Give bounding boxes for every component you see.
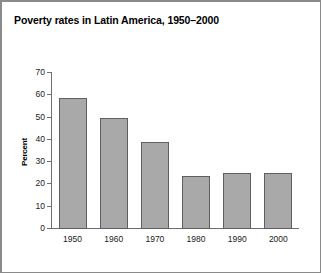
bar-1990 xyxy=(223,173,251,229)
y-axis-title-holder: Percent xyxy=(2,72,22,232)
y-axis-tick-mark xyxy=(47,161,51,162)
x-axis-tick-label: 1980 xyxy=(176,234,217,244)
bar-1970 xyxy=(141,142,169,229)
x-axis-tick-label: 1950 xyxy=(52,234,93,244)
x-axis-tick-label: 1960 xyxy=(93,234,134,244)
y-axis-tick-label: 50 xyxy=(36,112,45,122)
bar-slot xyxy=(134,68,175,229)
y-axis-tick-label: 70 xyxy=(36,67,45,77)
y-axis-tick-mark xyxy=(47,139,51,140)
y-axis-title: Percent xyxy=(20,72,32,232)
bar-slot xyxy=(93,68,134,229)
x-axis-tick-label: 1990 xyxy=(217,234,258,244)
y-axis-tick-mark xyxy=(47,117,51,118)
bar-1950 xyxy=(59,98,87,229)
bar-slot xyxy=(52,68,93,229)
bar-series xyxy=(52,68,299,229)
bar-slot xyxy=(258,68,299,229)
bar-2000 xyxy=(264,173,292,229)
x-axis-tick-labels: 195019601970198019902000 xyxy=(52,234,299,244)
y-axis-tick-label: 10 xyxy=(36,201,45,211)
y-axis-tick-mark xyxy=(47,228,51,229)
y-axis-tick-label: 40 xyxy=(36,134,45,144)
y-axis-tick-label: 30 xyxy=(36,156,45,166)
y-axis-tick-mark xyxy=(47,183,51,184)
bar-1980 xyxy=(182,176,210,229)
bar-slot xyxy=(176,68,217,229)
chart-figure: Poverty rates in Latin America, 1950–200… xyxy=(0,0,321,273)
y-axis-tick-mark xyxy=(47,94,51,95)
page-title: Poverty rates in Latin America, 1950–200… xyxy=(14,14,219,26)
y-axis-tick-mark xyxy=(47,72,51,73)
y-axis-tick-mark xyxy=(47,206,51,207)
bar-slot xyxy=(217,68,258,229)
x-axis-tick-label: 1970 xyxy=(134,234,175,244)
plot-area: 706050403020100 xyxy=(51,68,299,228)
bar-1960 xyxy=(100,118,128,229)
y-axis-tick-label: 0 xyxy=(40,223,45,233)
y-axis-tick-label: 60 xyxy=(36,89,45,99)
x-axis-tick-label: 2000 xyxy=(258,234,299,244)
y-axis-tick-label: 20 xyxy=(36,178,45,188)
